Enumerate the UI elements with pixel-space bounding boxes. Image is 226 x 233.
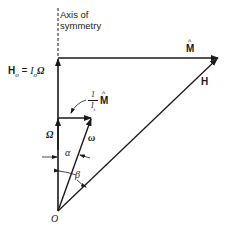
- M-hat-small-label: M: [100, 96, 108, 106]
- axis-label-line1: Axis of: [60, 10, 89, 20]
- diagram-lines: [0, 0, 226, 233]
- beta-label: β: [75, 170, 80, 180]
- H-o-equation: Ho = IoΩ: [8, 66, 44, 79]
- omega-vector: [58, 119, 91, 211]
- M-hat-label: M: [186, 44, 194, 54]
- H-vector: [58, 59, 217, 211]
- origin-label: O: [51, 214, 58, 224]
- axis-label-line2: symmetry: [60, 21, 101, 31]
- Omega-label: Ω: [46, 130, 53, 140]
- label-pointer: [71, 100, 86, 113]
- H-label: H: [201, 77, 208, 87]
- fraction-1-over-It: 1 It: [88, 91, 98, 112]
- beta-arc: [59, 171, 76, 175]
- omega-label: ω: [88, 133, 95, 143]
- alpha-label: α: [65, 148, 70, 158]
- vector-diagram: Axis of symmetry Ho = IoΩ M H 1 It M Ω ω…: [0, 0, 226, 233]
